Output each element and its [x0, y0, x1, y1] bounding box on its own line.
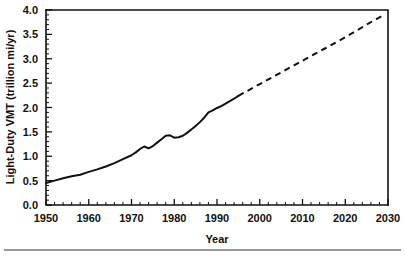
- y-tick-label: 0.5: [23, 175, 38, 187]
- series-line-historical: [46, 96, 238, 183]
- y-tick-label: 3.5: [23, 28, 38, 40]
- x-tick-label: 1990: [205, 212, 229, 224]
- x-tick-label: 2000: [248, 212, 272, 224]
- vmt-line-chart: 0.00.51.01.52.02.53.03.54.0 195019601970…: [0, 0, 405, 257]
- chart-figure: 0.00.51.01.52.02.53.03.54.0 195019601970…: [0, 0, 405, 257]
- x-tick-label: 1960: [77, 212, 101, 224]
- y-axis-title: Light-Duty VMT (trillion mi/yr): [4, 29, 16, 184]
- y-tick-label: 1.0: [23, 150, 38, 162]
- y-tick-label: 1.5: [23, 126, 38, 138]
- x-axis-tick-labels: 195019601970198019902000201020202030: [34, 212, 400, 224]
- x-tick-label: 1970: [119, 212, 143, 224]
- y-tick-label: 2.5: [23, 77, 38, 89]
- x-axis-ticks: [46, 199, 388, 205]
- series-line-projected: [238, 15, 383, 96]
- x-tick-label: 1950: [34, 212, 58, 224]
- y-tick-label: 4.0: [23, 4, 38, 16]
- x-tick-label: 2030: [376, 212, 400, 224]
- x-tick-label: 2010: [290, 212, 314, 224]
- x-tick-label: 1980: [162, 212, 186, 224]
- y-axis-ticks: [46, 10, 52, 205]
- y-tick-label: 2.0: [23, 102, 38, 114]
- y-tick-label: 3.0: [23, 53, 38, 65]
- y-tick-label: 0.0: [23, 199, 38, 211]
- y-axis-tick-labels: 0.00.51.01.52.02.53.03.54.0: [23, 4, 38, 211]
- x-tick-label: 2020: [333, 212, 357, 224]
- x-axis-title: Year: [205, 233, 229, 245]
